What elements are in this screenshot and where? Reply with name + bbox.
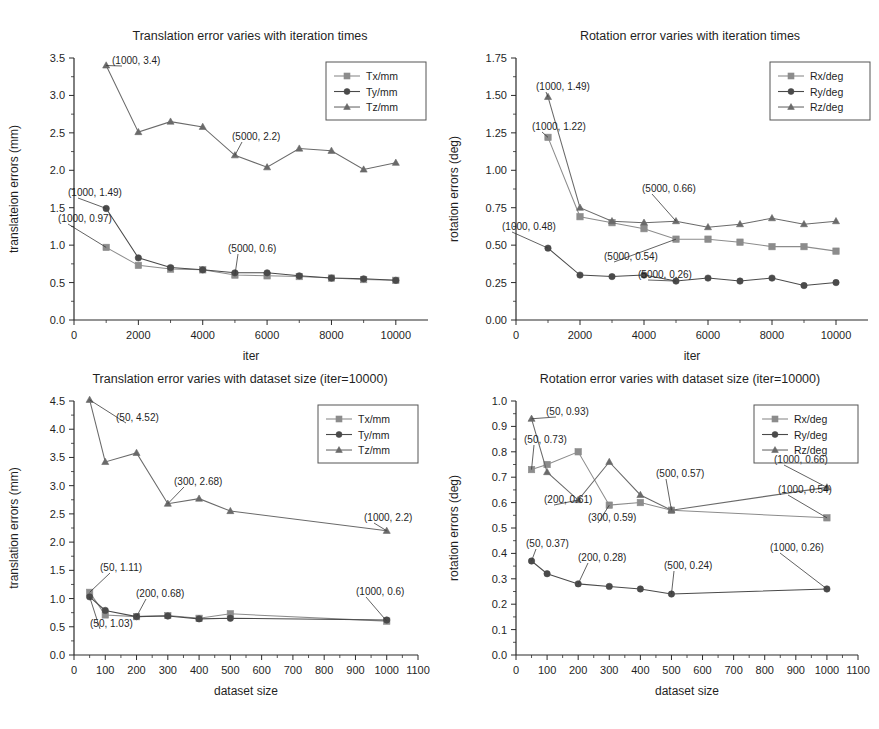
y-tick-label: 1.0 <box>50 239 65 251</box>
x-tick-label: 8000 <box>319 329 343 341</box>
annotation-label: (300, 2.68) <box>174 476 222 487</box>
marker-square <box>336 416 342 422</box>
marker-square <box>801 243 807 249</box>
annotation-leader <box>671 571 674 594</box>
annotation-label: (1000, 0.26) <box>770 542 824 553</box>
annotation-leader <box>532 445 534 470</box>
y-tick-label: 1.50 <box>486 89 507 101</box>
x-tick-label: 6000 <box>255 329 279 341</box>
x-axis-label: dataset size <box>214 684 278 698</box>
marker-circle <box>772 432 778 438</box>
annotation-leader <box>780 553 827 589</box>
series-Rz-deg <box>544 93 839 229</box>
marker-triangle <box>832 218 839 224</box>
y-tick-label: 3.5 <box>50 52 65 64</box>
marker-circle <box>609 273 615 279</box>
y-tick-label: 1.25 <box>486 127 507 139</box>
y-axis-label: rotation errors (deg) <box>447 475 461 581</box>
annotation-leader <box>512 232 548 248</box>
y-tick-label: 4.0 <box>50 423 65 435</box>
chart-panel-rotation-dataset: Rotation error varies with dataset size … <box>440 355 879 729</box>
figure-page: Translation error varies with iteration … <box>0 0 879 729</box>
chart-rotation-vs-dataset-size: Rotation error varies with dataset size … <box>440 355 879 729</box>
x-tick-label: 1100 <box>406 664 430 676</box>
y-tick-label: 1.5 <box>50 202 65 214</box>
marker-circle <box>637 586 643 592</box>
marker-circle <box>165 613 171 619</box>
y-tick-label: 1.00 <box>486 164 507 176</box>
chart-panel-translation-iterations: Translation error varies with iteration … <box>0 0 440 365</box>
annotation-leader <box>578 563 588 584</box>
annotation-label: (300, 0.59) <box>588 512 636 523</box>
y-tick-label: 0.5 <box>50 621 65 633</box>
marker-square <box>577 213 583 219</box>
y-tick-label: 3.0 <box>50 480 65 492</box>
x-tick-label: 600 <box>693 664 711 676</box>
marker-circle <box>103 205 109 211</box>
series-line <box>548 248 836 285</box>
marker-square <box>103 244 109 250</box>
legend-label: Rx/deg <box>794 413 827 425</box>
marker-circle <box>384 617 390 623</box>
annotation-label: (500, 0.24) <box>664 560 712 571</box>
y-tick-label: 0.7 <box>492 471 507 483</box>
legend-label: Rz/deg <box>810 101 843 113</box>
marker-triangle <box>296 145 303 151</box>
marker-circle <box>788 89 794 95</box>
x-tick-label: 6000 <box>696 329 720 341</box>
annotation-label: (50, 0.73) <box>524 434 567 445</box>
marker-circle <box>102 607 108 613</box>
series-line <box>548 97 836 227</box>
legend-label: Ty/mm <box>358 429 390 441</box>
marker-circle <box>196 616 202 622</box>
marker-square <box>705 236 711 242</box>
legend-label: Rz/deg <box>794 444 827 456</box>
y-tick-label: 4.5 <box>50 395 65 407</box>
x-tick-label: 200 <box>569 664 587 676</box>
annotation-leader <box>532 417 556 419</box>
annotation-label: (200, 0.68) <box>136 588 184 599</box>
chart-translation-vs-dataset-size: Translation error varies with dataset si… <box>0 355 440 729</box>
marker-circle <box>296 273 302 279</box>
marker-triangle <box>167 118 174 124</box>
marker-circle <box>344 89 350 95</box>
y-tick-label: 1.75 <box>486 52 507 64</box>
annotation-label: (1000, 0.97) <box>58 213 112 224</box>
marker-triangle <box>768 215 775 221</box>
y-tick-label: 0.8 <box>492 446 507 458</box>
legend-label: Tz/mm <box>358 444 390 456</box>
marker-triangle <box>103 62 110 68</box>
x-tick-label: 400 <box>631 664 649 676</box>
marker-circle <box>360 276 366 282</box>
marker-triangle <box>576 204 583 210</box>
marker-square <box>575 449 581 455</box>
marker-square <box>737 239 743 245</box>
annotation-label: (50, 0.37) <box>526 538 569 549</box>
series-line <box>106 65 396 169</box>
legend: Tx/mmTy/mmTz/mm <box>326 62 426 120</box>
annotation-leader <box>137 599 146 617</box>
marker-circle <box>606 583 612 589</box>
y-axis-label: translation errors (mm) <box>7 467 21 588</box>
annotation-label: (1000, 3.4) <box>112 55 160 66</box>
y-tick-label: 2.5 <box>50 508 65 520</box>
series-line <box>548 137 836 251</box>
x-tick-label: 1000 <box>374 664 398 676</box>
y-tick-label: 0.2 <box>492 598 507 610</box>
annotation-label: (5000, 0.26) <box>638 269 692 280</box>
y-tick-label: 0.0 <box>50 649 65 661</box>
x-tick-label: 10000 <box>381 329 412 341</box>
marker-circle <box>528 558 534 564</box>
annotation-label: (1000, 1.49) <box>536 81 590 92</box>
marker-triangle <box>392 159 399 165</box>
x-tick-label: 900 <box>346 664 364 676</box>
chart-title: Rotation error varies with iteration tim… <box>580 29 800 43</box>
marker-square <box>135 262 141 268</box>
annotation-label: (500, 0.57) <box>656 468 704 479</box>
x-tick-label: 8000 <box>760 329 784 341</box>
x-tick-label: 100 <box>538 664 556 676</box>
x-tick-label: 1000 <box>815 664 839 676</box>
annotation-label: (5000, 0.66) <box>642 183 696 194</box>
chart-title: Rotation error varies with dataset size … <box>540 372 820 386</box>
chart-panel-translation-dataset: Translation error varies with dataset si… <box>0 355 440 729</box>
